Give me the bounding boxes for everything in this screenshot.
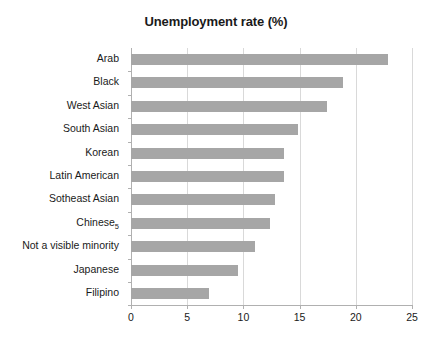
y-axis-category-labels: ArabBlackWest AsianSouth AsianKoreanLati… [0,48,127,305]
category-label: West Asian [0,100,127,111]
x-tick-label-0: 0 [116,311,146,324]
bar-row [131,165,412,188]
category-label-text: Sotheast Asian [49,192,119,204]
y-tick-mark [128,95,131,96]
x-tick-label-25: 25 [397,311,427,324]
category-label-text: Filipino [86,286,119,298]
x-tick-label-20: 20 [341,311,371,324]
y-tick-mark [128,165,131,166]
category-label: Arab [0,53,127,64]
x-tick-mark-20 [356,305,357,309]
bar-south-asian [131,124,298,135]
bar-sotheast-asian [131,194,275,205]
bar-west-asian [131,101,327,112]
x-tick-label-5: 5 [172,311,202,324]
bar-black [131,77,343,88]
category-label: Chinese5 [0,217,127,232]
bar-arab [131,54,388,65]
category-label: Not a visible minority [0,240,127,251]
category-label: Korean [0,147,127,158]
chart-title: Unemployment rate (%) [0,14,432,29]
y-tick-mark [128,212,131,213]
y-tick-mark [128,142,131,143]
y-tick-mark [128,71,131,72]
x-tick-mark-0 [131,305,132,309]
x-tick-label-15: 15 [285,311,315,324]
bar-korean [131,148,284,159]
gridline-25 [412,48,413,305]
category-label-text: South Asian [63,122,119,134]
bar-not-a-visible-minority [131,241,255,252]
bar-row [131,48,412,71]
bar-chinese [131,218,270,229]
category-label: Sotheast Asian [0,193,127,204]
bar-row [131,212,412,235]
bar-row [131,282,412,305]
y-tick-mark [128,259,131,260]
bar-chart: Unemployment rate (%) ArabBlackWest Asia… [0,0,432,348]
y-tick-mark [128,235,131,236]
category-label: Filipino [0,287,127,298]
footnote-marker: 5 [115,222,119,231]
y-tick-mark [128,118,131,119]
bar-row [131,142,412,165]
x-tick-label-10: 10 [228,311,258,324]
x-tick-mark-15 [300,305,301,309]
category-label: South Asian [0,123,127,134]
bar-japanese [131,265,238,276]
y-tick-mark [128,282,131,283]
x-tick-mark-25 [412,305,413,309]
bar-row [131,71,412,94]
category-label-text: West Asian [67,99,119,111]
x-tick-mark-10 [243,305,244,309]
category-label: Latin American [0,170,127,181]
category-label-text: Latin American [50,169,119,181]
plot-area [131,48,412,305]
bar-row [131,188,412,211]
category-label-text: Japanese [73,263,119,275]
bar-row [131,95,412,118]
bar-latin-american [131,171,284,182]
category-label-text: Korean [85,146,119,158]
bar-row [131,259,412,282]
category-label: Black [0,76,127,87]
category-label: Japanese [0,264,127,275]
category-label-text: Arab [97,52,119,64]
bar-row [131,118,412,141]
x-tick-mark-5 [187,305,188,309]
bar-row [131,235,412,258]
bar-filipino [131,288,209,299]
category-label-text: Black [93,75,119,87]
y-tick-mark [128,188,131,189]
category-label-text: Not a visible minority [22,239,119,251]
category-label-text: Chinese [76,216,115,228]
